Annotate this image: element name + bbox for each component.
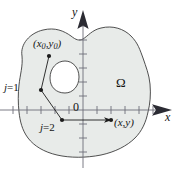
initial-point-close-paren: )	[58, 37, 62, 49]
step-one-label: j=1	[4, 82, 19, 93]
target-point-label: (x,y)	[114, 117, 134, 128]
step-two-value: 2	[49, 121, 55, 133]
y-axis-label: y	[72, 6, 77, 18]
step-two-point-marker	[60, 118, 64, 122]
region-omega-label: Ω	[116, 76, 126, 89]
x-axis-label: x	[165, 111, 170, 123]
math-figure: y x 0 Ω (x0,y0) (x,y) j=1 j=2	[0, 0, 176, 177]
target-point-marker	[109, 118, 113, 122]
initial-point-label: (x0,y0)	[33, 38, 61, 52]
figure-canvas	[0, 0, 176, 177]
step-one-point-marker	[39, 88, 43, 92]
initial-point-marker	[47, 54, 51, 58]
target-point-close-paren: )	[130, 116, 134, 128]
step-one-value: 1	[13, 81, 19, 93]
step-two-label: j=2	[40, 122, 55, 133]
origin-label: 0	[73, 101, 79, 113]
